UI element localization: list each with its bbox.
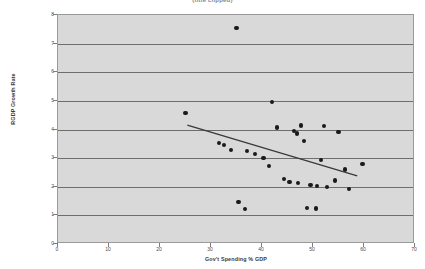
y-axis-tick-label: 8 [36,11,54,17]
x-axis-tick-label: 60 [351,246,375,253]
plot-area [57,14,414,243]
x-axis-tick-label: 70 [402,246,425,253]
x-axis-title: Gov't Spending % GDP [57,256,415,262]
chart-title: (title clipped) [0,0,425,4]
trendline [58,15,413,242]
y-axis-tick-label: 7 [36,40,54,46]
y-axis-tick-labels: 012345678 [35,14,54,243]
y-axis-tick-label: 5 [36,97,54,103]
y-axis-title: RGDP Growth Rate [10,54,16,144]
y-axis-tick-label: 4 [36,126,54,132]
scatter-chart: (title clipped) RGDP Growth Rate 0123456… [0,0,425,269]
x-axis-tick-label: 10 [96,246,120,253]
x-axis-tick-label: 40 [249,246,273,253]
x-axis-tick-label: 50 [300,246,324,253]
y-axis-tick-label: 3 [36,154,54,160]
x-axis-tick-label: 30 [198,246,222,253]
x-axis-tick-label: 20 [147,246,171,253]
x-axis-tick-label: 0 [45,246,69,253]
y-axis-tick-label: 2 [36,183,54,189]
y-axis-tick-label: 1 [36,211,54,217]
plot-inner [58,15,413,242]
y-axis-tick-label: 6 [36,68,54,74]
x-axis-tick-labels: 010203040506070 [57,246,414,255]
